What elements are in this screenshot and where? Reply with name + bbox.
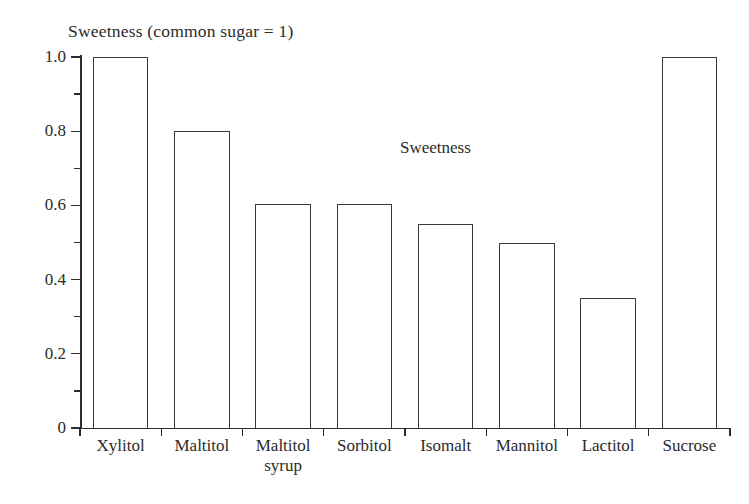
bar xyxy=(337,204,393,428)
x-tick xyxy=(729,429,730,436)
bar xyxy=(93,57,149,428)
x-axis-label: Sorbitol xyxy=(318,436,411,456)
bar xyxy=(255,204,311,428)
y-tick-minor xyxy=(74,242,80,243)
series-annotation-label: Sweetness xyxy=(400,138,471,158)
x-axis-label: Maltitol xyxy=(155,436,248,456)
x-tick xyxy=(404,429,405,436)
y-tick-major xyxy=(71,353,80,354)
x-axis-label-line1: Sorbitol xyxy=(337,436,392,455)
chart-figure: Sweetness (common sugar = 1) 00.20.40.60… xyxy=(0,0,749,504)
x-axis-label-line1: Xylitol xyxy=(97,436,145,455)
x-axis-label-line1: Sucrose xyxy=(662,436,716,455)
y-tick-minor xyxy=(74,316,80,317)
y-tick-label: 0 xyxy=(58,419,67,436)
x-axis-label: Xylitol xyxy=(74,436,167,456)
x-axis-label: Lactitol xyxy=(562,436,655,456)
y-tick-label: 0.4 xyxy=(45,271,66,288)
y-axis-line xyxy=(80,55,82,429)
bar xyxy=(499,243,555,429)
x-axis-label-line1: Maltitol xyxy=(174,436,229,455)
x-axis-label: Sucrose xyxy=(643,436,736,456)
x-tick xyxy=(567,429,568,436)
y-tick-minor xyxy=(74,168,80,169)
y-tick-major xyxy=(71,279,80,280)
x-tick xyxy=(242,429,243,436)
bar xyxy=(174,131,230,428)
x-axis-label: Maltitolsyrup xyxy=(237,436,330,476)
y-tick-label: 0.6 xyxy=(45,196,66,213)
x-tick xyxy=(323,429,324,436)
x-axis-label-line1: Lactitol xyxy=(582,436,635,455)
bar xyxy=(662,57,718,428)
y-tick-label: 0.2 xyxy=(45,345,66,362)
x-tick xyxy=(486,429,487,436)
y-tick-label: 1.0 xyxy=(45,48,66,65)
bar xyxy=(418,224,474,428)
chart-title: Sweetness (common sugar = 1) xyxy=(68,20,293,42)
x-tick xyxy=(79,429,80,436)
y-tick-major xyxy=(71,131,80,132)
x-axis-label-line1: Mannitol xyxy=(496,436,558,455)
x-tick xyxy=(161,429,162,436)
x-axis-label: Isomalt xyxy=(399,436,492,456)
y-tick-major xyxy=(71,56,80,57)
bar xyxy=(580,298,636,428)
x-axis-label-line1: Maltitol xyxy=(256,436,311,455)
x-axis-label-line2: syrup xyxy=(237,456,330,476)
y-tick-label: 0.8 xyxy=(45,122,66,139)
y-tick-minor xyxy=(74,93,80,94)
y-tick-major xyxy=(71,205,80,206)
x-axis-label: Mannitol xyxy=(480,436,573,456)
x-tick xyxy=(648,429,649,436)
x-axis-label-line1: Isomalt xyxy=(420,436,471,455)
y-tick-minor xyxy=(74,390,80,391)
